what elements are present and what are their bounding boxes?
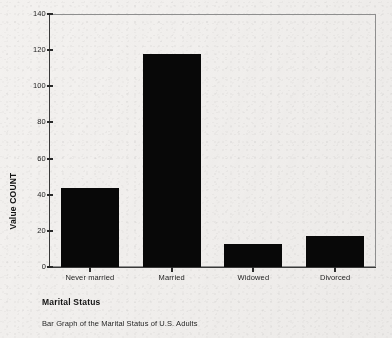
y-tick-label-40: 40 — [16, 191, 46, 199]
x-tick-label-2: Widowed — [238, 273, 270, 282]
bar-divorced — [306, 236, 364, 267]
y-tick-label-60: 60 — [16, 155, 46, 163]
x-tick-1 — [171, 267, 173, 272]
x-tick-2 — [252, 267, 254, 272]
x-tick-0 — [89, 267, 91, 272]
y-tick-label-140: 140 — [16, 10, 46, 18]
bar-never-married — [61, 188, 119, 268]
x-tick-label-3: Divorced — [320, 273, 350, 282]
figure-caption: Bar Graph of the Marital Status of U.S. … — [42, 319, 198, 328]
y-tick-label-0: 0 — [16, 263, 46, 271]
bars-layer — [49, 14, 376, 267]
x-tick-label-1: Married — [159, 273, 185, 282]
x-tick-label-0: Never married — [65, 273, 114, 282]
bar-widowed — [224, 244, 282, 267]
x-axis-line — [49, 267, 376, 268]
y-tick-label-120: 120 — [16, 46, 46, 54]
y-tick-label-20: 20 — [16, 227, 46, 235]
y-tick-label-100: 100 — [16, 82, 46, 90]
x-axis-title: Marital Status — [42, 297, 101, 307]
y-tick-label-80: 80 — [16, 118, 46, 126]
bar-chart-figure: 020406080100120140 Never marriedMarriedW… — [0, 0, 392, 338]
bar-married — [143, 54, 201, 267]
x-tick-3 — [334, 267, 336, 272]
y-axis-title: Value COUNT — [8, 166, 18, 236]
